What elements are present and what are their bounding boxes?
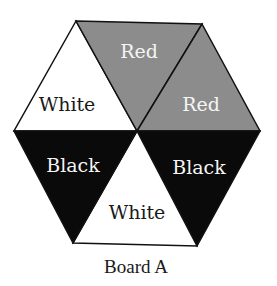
label-bottom-right: Black	[172, 156, 226, 178]
label-top-right: Red	[182, 93, 220, 115]
hexagon-board: White Red Red Black White Black Board A	[0, 0, 277, 286]
label-top: Red	[120, 40, 158, 62]
label-top-left: White	[39, 93, 96, 115]
label-bottom: White	[109, 201, 166, 223]
board-caption: Board A	[104, 256, 168, 277]
label-bottom-left: Black	[46, 154, 100, 176]
